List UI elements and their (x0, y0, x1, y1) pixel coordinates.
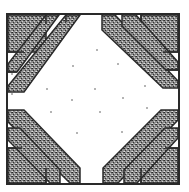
quilt-block-diagram (0, 0, 189, 192)
